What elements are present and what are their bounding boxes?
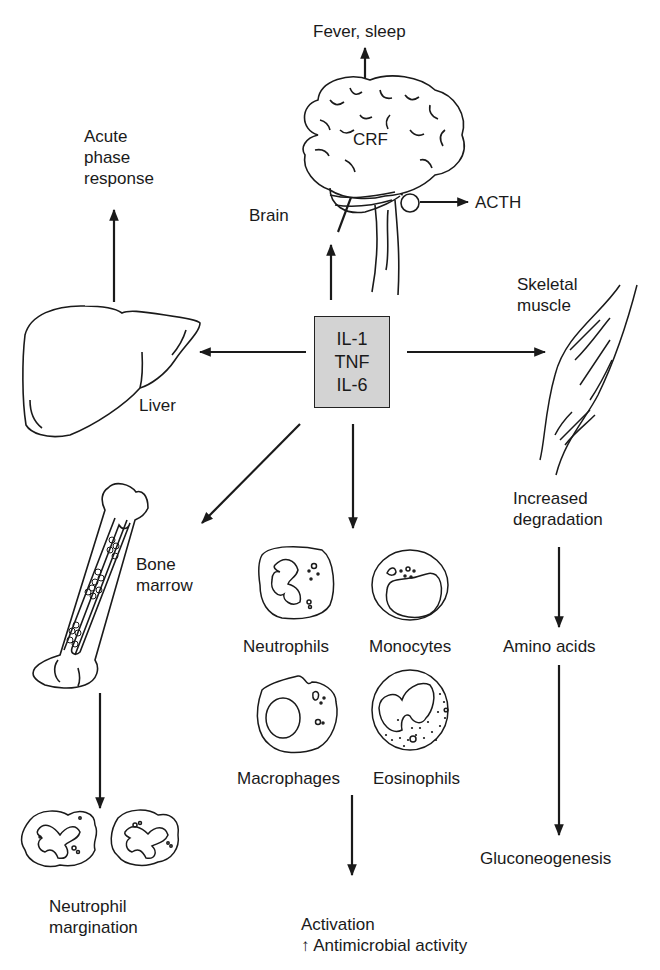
bone-line-2: marrow xyxy=(136,575,193,596)
acth-label: ACTH xyxy=(475,192,521,213)
acute-phase-response-label: Acute phase response xyxy=(84,126,154,189)
gluconeogenesis-label: Gluconeogenesis xyxy=(480,848,611,869)
acute-line-2: phase xyxy=(84,147,154,168)
macrophages-label: Macrophages xyxy=(237,768,340,789)
skeletal-muscle-label: Skeletal muscle xyxy=(517,274,577,316)
activation-line-1: Activation xyxy=(301,914,467,935)
marginated-neutrophil-2 xyxy=(111,810,178,865)
margination-line-2: margination xyxy=(49,917,138,938)
cytokine-il6: IL-6 xyxy=(336,374,367,397)
degradation-line-2: degradation xyxy=(513,509,603,530)
brain-illustration xyxy=(303,76,464,295)
bone-marrow-label: Bone marrow xyxy=(136,554,193,596)
activation-label: Activation ↑ Antimicrobial activity xyxy=(301,914,467,956)
cytokine-box: IL-1 TNF IL-6 xyxy=(314,316,390,408)
acute-line-3: response xyxy=(84,168,154,189)
activation-line-2: ↑ Antimicrobial activity xyxy=(301,935,467,956)
amino-acids-label: Amino acids xyxy=(503,636,596,657)
eosinophil-cell xyxy=(372,670,448,750)
degradation-line-1: Increased xyxy=(513,488,603,509)
fever-sleep-label: Fever, sleep xyxy=(313,21,406,42)
muscle-line-1: Skeletal xyxy=(517,274,577,295)
cytokine-il1: IL-1 xyxy=(336,328,367,351)
neutrophil-cell xyxy=(259,547,334,619)
neutrophils-label: Neutrophils xyxy=(243,636,329,657)
macrophage-cell xyxy=(257,676,337,753)
monocyte-cell xyxy=(372,550,448,620)
marginated-neutrophil-1 xyxy=(21,811,96,866)
arrow-to-bone-marrow xyxy=(202,424,300,523)
monocytes-label: Monocytes xyxy=(369,636,451,657)
liver-label: Liver xyxy=(139,395,176,416)
acute-line-1: Acute xyxy=(84,126,154,147)
increased-degradation-label: Increased degradation xyxy=(513,488,603,530)
liver-illustration xyxy=(23,306,200,437)
cytokine-tnf: TNF xyxy=(335,351,370,374)
neutrophil-margination-label: Neutrophil margination xyxy=(49,896,138,938)
eosinophils-label: Eosinophils xyxy=(373,768,460,789)
muscle-line-2: muscle xyxy=(517,295,577,316)
margination-line-1: Neutrophil xyxy=(49,896,138,917)
crf-label: CRF xyxy=(353,129,388,150)
bone-line-1: Bone xyxy=(136,554,193,575)
brain-label: Brain xyxy=(249,205,289,226)
